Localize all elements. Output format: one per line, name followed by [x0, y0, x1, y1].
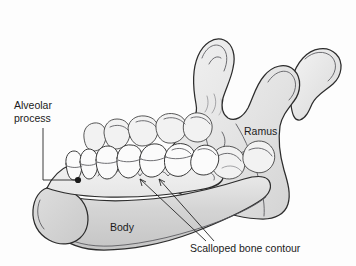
label-ramus: Ramus [244, 125, 277, 137]
mandible-figure: Alveolar process Ramus Body Scalloped bo… [0, 0, 356, 266]
posterior-molar-2 [243, 141, 275, 173]
mandible-illustration: Alveolar process Ramus Body Scalloped bo… [0, 0, 356, 266]
label-alveolar-process-line2: process [14, 112, 51, 124]
near-tooth-molar-2 [191, 145, 219, 175]
label-body: Body [110, 221, 135, 233]
label-scalloped-bone-contour: Scalloped bone contour [190, 242, 301, 254]
label-alveolar-process-line1: Alveolar [14, 99, 52, 111]
alveolar-process-leader-dot [75, 177, 81, 183]
far-tooth-2 [104, 119, 130, 149]
near-tooth-incisor-1 [66, 151, 82, 180]
